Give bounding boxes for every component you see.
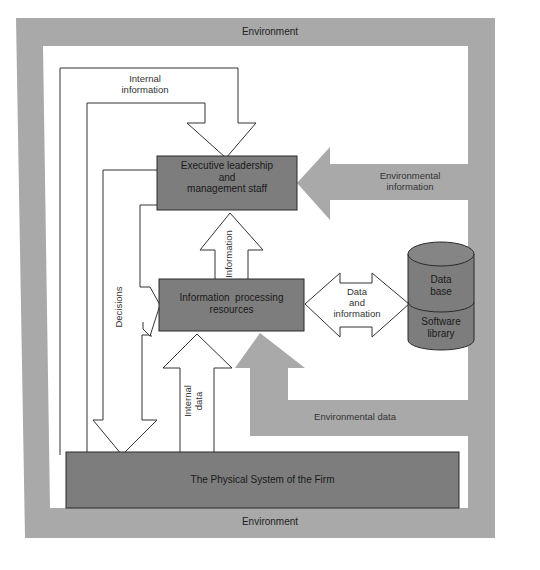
- executive-label: Executive leadership and management staf…: [157, 160, 297, 195]
- executive-label-line1: Executive leadership: [157, 160, 297, 172]
- environmental-data-label: Environmental data: [290, 412, 420, 423]
- internal-information-line2: information: [100, 85, 190, 96]
- internal-data-label: Internal data: [183, 371, 209, 431]
- processing-label-line1: Information processing: [159, 292, 304, 304]
- software-library-label: Software library: [408, 316, 474, 339]
- executive-label-line3: management staff: [157, 183, 297, 195]
- environmental-information-label: Environmental information: [360, 171, 460, 193]
- information-label: Information: [224, 224, 236, 284]
- environmental-information-line2: information: [360, 182, 460, 193]
- decisions-label: Decisions: [114, 277, 126, 337]
- environment-top-label: Environment: [220, 26, 320, 38]
- data-and-information-line3: information: [322, 309, 392, 320]
- database-label: Data base: [408, 274, 474, 297]
- executive-label-line2: and: [157, 172, 297, 184]
- database-label-line1: Data: [408, 274, 474, 286]
- internal-data-line2: data: [194, 371, 205, 431]
- physical-system-label: The Physical System of the Firm: [66, 474, 459, 486]
- software-library-line2: library: [408, 328, 474, 340]
- environment-bottom-label: Environment: [220, 516, 320, 528]
- processing-label: Information processing resources: [159, 292, 304, 315]
- decisions-flow: [93, 170, 160, 455]
- data-and-information-label: Data and information: [322, 287, 392, 320]
- processing-label-line2: resources: [159, 304, 304, 316]
- internal-information-label: Internal information: [100, 74, 190, 96]
- software-library-line1: Software: [408, 316, 474, 328]
- database-label-line2: base: [408, 286, 474, 298]
